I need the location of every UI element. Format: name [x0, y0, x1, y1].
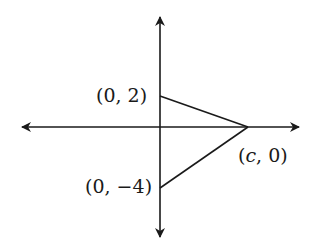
point-label-0-2: (0, 2) — [96, 86, 147, 105]
point-label-c-0: (c, 0) — [238, 146, 288, 165]
separator: , — [105, 175, 117, 197]
paren-close: ) — [280, 144, 287, 166]
triangle-edge-bottom — [160, 127, 248, 188]
separator: , — [256, 144, 268, 166]
x-coord: c — [245, 144, 256, 166]
paren-close: ) — [145, 175, 152, 197]
paren-close: ) — [140, 84, 147, 106]
separator: , — [116, 84, 128, 106]
y-coord: 2 — [128, 84, 140, 106]
y-coord: 0 — [268, 144, 280, 166]
y-coord: −4 — [117, 175, 145, 197]
coordinate-diagram — [0, 0, 311, 243]
x-coord: 0 — [103, 84, 115, 106]
triangle-edge-top — [160, 96, 248, 127]
x-coord: 0 — [92, 175, 104, 197]
point-label-0-neg4: (0, −4) — [85, 177, 152, 196]
